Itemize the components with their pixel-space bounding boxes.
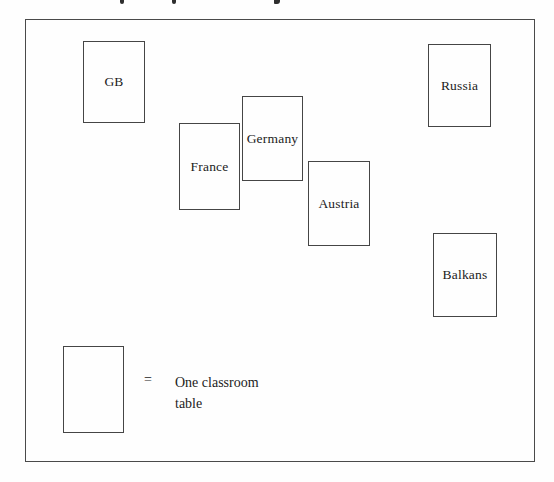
country-table-label-austria: Austria [318,196,359,212]
country-table-balkans: Balkans [433,233,497,317]
legend-label-line2: table [175,393,259,414]
cropped-caption-remnant [172,0,176,4]
country-table-austria: Austria [308,161,370,246]
country-table-france: France [179,123,240,210]
classroom-layout-figure: GB France Germany Austria Russia Balkans… [0,0,554,482]
country-table-russia: Russia [428,44,491,127]
cropped-caption-remnant [274,0,280,4]
country-table-label-balkans: Balkans [443,267,488,283]
country-table-label-germany: Germany [247,131,299,147]
legend-label: One classroom table [175,372,259,414]
legend-label-line1: One classroom [175,372,259,393]
legend-equals-sign: = [138,372,158,388]
country-table-germany: Germany [242,96,303,181]
country-table-gb: GB [83,41,145,123]
cropped-caption-remnant [120,0,124,4]
legend-table-symbol [63,346,124,433]
country-table-label-france: France [191,159,229,175]
country-table-label-gb: GB [104,74,123,90]
country-table-label-russia: Russia [441,78,478,94]
